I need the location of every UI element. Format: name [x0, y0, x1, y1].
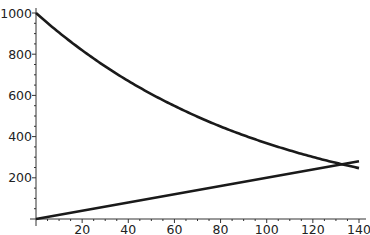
y-tick-label: 800	[8, 47, 32, 62]
series-line-increasing	[36, 161, 359, 219]
y-tick-label: 200	[8, 170, 32, 185]
x-tick-label: 60	[166, 222, 182, 234]
x-tick-label: 20	[74, 222, 90, 234]
series-line-decreasing	[36, 13, 359, 168]
x-tick-label: 140	[347, 222, 370, 234]
x-tick-label: 80	[213, 222, 229, 234]
x-tick-label: 100	[255, 222, 279, 234]
series-group	[36, 13, 359, 219]
y-tick-label: 400	[8, 129, 32, 144]
x-tick-label: 120	[301, 222, 325, 234]
line-chart: 204060801001201402004006008001000	[0, 0, 370, 234]
x-tick-label: 40	[120, 222, 136, 234]
y-tick-label: 600	[8, 88, 32, 103]
y-tick-label: 1000	[0, 6, 32, 21]
axes: 204060801001201402004006008001000	[0, 6, 370, 235]
